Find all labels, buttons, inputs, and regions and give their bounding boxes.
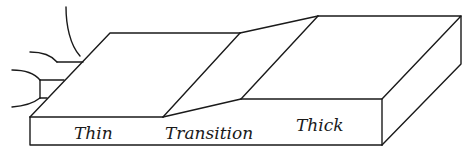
slab-diagram: Thin Transition Thick bbox=[0, 0, 467, 154]
label-thin: Thin bbox=[74, 123, 113, 143]
region-thin bbox=[30, 33, 240, 117]
decorative-strands bbox=[12, 7, 83, 107]
region-transition bbox=[163, 16, 318, 117]
label-thick: Thick bbox=[296, 115, 344, 135]
label-transition: Transition bbox=[165, 123, 253, 143]
region-thick bbox=[241, 16, 461, 145]
